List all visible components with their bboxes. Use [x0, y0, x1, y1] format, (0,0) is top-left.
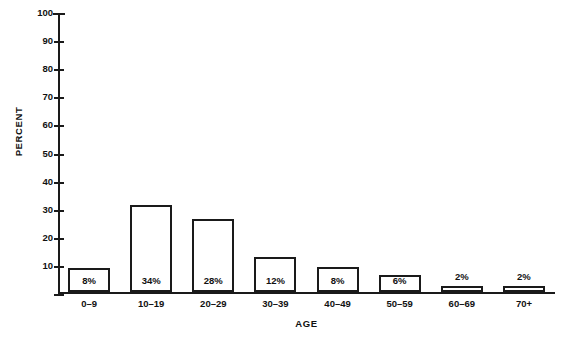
x-axis-line: [58, 292, 555, 294]
bar-group: 2%: [493, 13, 555, 292]
y-axis-tick-label: 60: [42, 118, 53, 131]
y-axis-tick-label: 70: [42, 90, 53, 103]
bar[interactable]: [441, 286, 483, 292]
bar-value-label: 8%: [319, 275, 357, 287]
y-axis-title: PERCENT: [13, 92, 24, 172]
x-axis-tick-label: 60–69: [431, 297, 493, 311]
x-axis-tick-label: 70+: [493, 297, 555, 311]
bar[interactable]: 8%: [317, 267, 359, 292]
clipped-caption-text: [36, 337, 536, 345]
bar-group: 8%: [58, 13, 120, 292]
bar[interactable]: 28%: [192, 219, 234, 292]
bar-group: 8%: [307, 13, 369, 292]
bar-value-label: 12%: [256, 275, 294, 287]
bar[interactable]: 34%: [130, 205, 172, 292]
bar-group: 34%: [120, 13, 182, 292]
x-axis-tick-label: 30–39: [244, 297, 306, 311]
x-axis-tick-label: 10–19: [120, 297, 182, 311]
plot-area: 102030405060708090100 8%34%28%12%8%6%2%2…: [58, 13, 555, 294]
y-axis-tick-label: 20: [42, 231, 53, 244]
x-axis-tick-label: 20–29: [182, 297, 244, 311]
y-axis-tick-label: 30: [42, 203, 53, 216]
y-axis-tick-mark: [54, 294, 64, 296]
bar-group: 2%: [431, 13, 493, 292]
y-axis-tick-label: 50: [42, 147, 53, 160]
bar[interactable]: 12%: [254, 257, 296, 292]
bar-group: 6%: [369, 13, 431, 292]
y-axis-tick-label: 40: [42, 175, 53, 188]
bars-layer: 8%34%28%12%8%6%2%2%: [58, 13, 555, 292]
x-axis-title: AGE: [58, 318, 555, 329]
bar-chart-figure: PERCENT 102030405060708090100 8%34%28%12…: [0, 0, 562, 345]
bar-value-label: 8%: [70, 275, 108, 287]
bar-group: 12%: [244, 13, 306, 292]
y-axis-tick-label: 10: [42, 259, 53, 272]
bar-value-label: 28%: [194, 275, 232, 287]
x-axis-tick-labels: 0–910–1920–2930–3940–4950–5960–6970+: [58, 297, 555, 313]
bar[interactable]: 8%: [68, 268, 110, 292]
x-axis-tick-label: 40–49: [307, 297, 369, 311]
bar-group: 28%: [182, 13, 244, 292]
x-axis-tick-label: 0–9: [58, 297, 120, 311]
x-axis-tick-label: 50–59: [369, 297, 431, 311]
bar-value-label: 2%: [494, 271, 554, 283]
y-axis-tick-label: 80: [42, 62, 53, 75]
bar-value-label: 34%: [132, 275, 170, 287]
y-axis-tick-label: 90: [42, 34, 53, 47]
bar-value-label: 6%: [381, 275, 419, 287]
bar[interactable]: 6%: [379, 275, 421, 292]
bar[interactable]: [503, 286, 545, 292]
bar-value-label: 2%: [432, 271, 492, 283]
y-axis-tick-label: 100: [37, 6, 53, 19]
